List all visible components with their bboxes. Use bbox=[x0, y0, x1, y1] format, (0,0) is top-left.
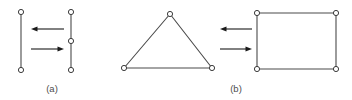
graph-node bbox=[333, 66, 338, 71]
panel-b-arrows bbox=[220, 27, 252, 52]
graph-transformation-figure: (a) (b) bbox=[0, 0, 352, 100]
panel-a-caption: (a) bbox=[46, 83, 58, 94]
graph-node bbox=[68, 38, 73, 43]
panel-a-right-shape-vertical-segment-three-nodes bbox=[68, 9, 73, 72]
panel-b-right-shape-rectangle bbox=[254, 10, 338, 71]
graph-node bbox=[254, 66, 259, 71]
panel-a: (a) bbox=[18, 9, 73, 94]
panel-b-caption: (b) bbox=[230, 83, 242, 94]
panel-a-arrows bbox=[31, 27, 64, 52]
panel-b-left-shape-triangle bbox=[121, 11, 214, 70]
graph-edge bbox=[124, 14, 170, 68]
graph-node bbox=[167, 11, 172, 16]
graph-node bbox=[68, 67, 73, 72]
graph-node bbox=[254, 10, 259, 15]
graph-node bbox=[209, 65, 214, 70]
arrow-right-bottom-head bbox=[246, 47, 253, 52]
graph-node bbox=[68, 9, 73, 14]
panel-a-left-shape-vertical-segment-two-nodes bbox=[18, 9, 23, 72]
arrow-left-top-head bbox=[31, 27, 38, 32]
graph-node bbox=[333, 10, 338, 15]
figure-container: (a) (b) bbox=[0, 0, 352, 100]
graph-edge bbox=[170, 14, 212, 68]
panel-b: (b) bbox=[121, 10, 338, 94]
arrow-left-top-head bbox=[220, 27, 227, 32]
graph-node bbox=[121, 65, 126, 70]
arrow-right-bottom-head bbox=[58, 47, 65, 52]
graph-node bbox=[18, 67, 23, 72]
graph-node bbox=[18, 9, 23, 14]
